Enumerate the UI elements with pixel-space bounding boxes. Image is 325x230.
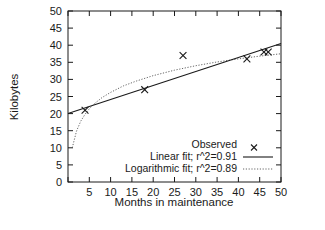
chart-figure: 05101520253035404550 5101520253035404550…	[0, 0, 325, 230]
x-tick-label: 50	[275, 186, 287, 198]
y-tick-label: 20	[50, 108, 62, 120]
observed-marker	[265, 49, 272, 56]
y-tick-label: 25	[50, 91, 62, 103]
linear-fit-line	[68, 43, 281, 113]
y-tick-label: 50	[50, 5, 62, 17]
y-axis-title: Kilobytes	[8, 73, 20, 120]
y-axis-tick-labels: 05101520253035404550	[50, 5, 62, 188]
chart-canvas: 05101520253035404550 5101520253035404550…	[0, 0, 325, 230]
x-axis-title: Months in maintenance	[115, 196, 234, 208]
legend-label-observed: Observed	[191, 138, 237, 150]
logarithmic-fit-line	[72, 54, 281, 148]
legend-label-logarithmic-fit: Logarithmic fit; r^2=0.89	[125, 162, 237, 174]
x-tick-label: 5	[86, 186, 92, 198]
observed-marker	[244, 55, 251, 62]
y-tick-label: 45	[50, 22, 62, 34]
x-tick-label: 45	[254, 186, 266, 198]
y-tick-label: 5	[56, 159, 62, 171]
y-tick-label: 35	[50, 56, 62, 68]
y-tick-label: 40	[50, 39, 62, 51]
legend-label-linear-fit: Linear fit; r^2=0.91	[150, 150, 237, 162]
x-tick-label: 40	[232, 186, 244, 198]
observed-marker	[180, 52, 187, 59]
y-tick-label: 15	[50, 125, 62, 137]
y-tick-label: 30	[50, 73, 62, 85]
y-tick-label: 0	[56, 176, 62, 188]
legend: Observed Linear fit; r^2=0.91 Logarithmi…	[125, 138, 273, 174]
legend-marker-x-icon	[251, 145, 257, 151]
y-tick-label: 10	[50, 142, 62, 154]
